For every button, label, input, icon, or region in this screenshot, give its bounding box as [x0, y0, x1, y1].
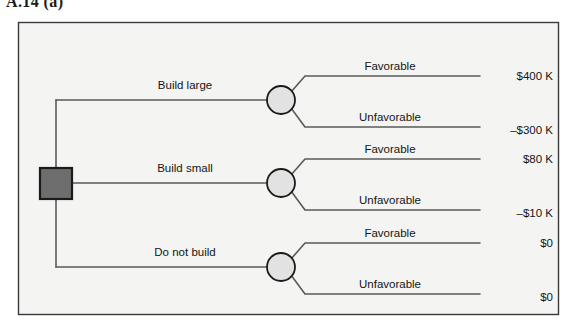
payoff-value-1-1: $400 K	[517, 70, 554, 82]
chance-node-2	[267, 169, 295, 197]
outcome-label-1-2: Unfavorable	[359, 111, 421, 123]
payoff-value-2-2: –$10 K	[517, 207, 554, 219]
decision-branch-label-3: Do not build	[154, 246, 215, 258]
outcome-label-3-2: Unfavorable	[359, 278, 421, 290]
outcome-label-2-2: Unfavorable	[359, 194, 421, 206]
payoff-value-2-1: $80 K	[523, 153, 553, 165]
outcome-label-1-1: Favorable	[364, 60, 415, 72]
payoff-value-3-1: $0	[540, 237, 553, 249]
chance-node-1	[267, 86, 295, 114]
payoff-value-1-2: –$300 K	[510, 124, 553, 136]
decision-node	[40, 168, 72, 199]
chance-node-3	[267, 253, 295, 281]
payoff-value-3-2: $0	[540, 291, 553, 303]
outcome-label-3-1: Favorable	[364, 227, 415, 239]
decision-branch-label-2: Build small	[157, 162, 213, 174]
decision-tree-canvas: Build large Favorable Unfavorable $400 K…	[0, 0, 578, 334]
decision-tree-figure: A.14 (a) Build large Favorable Unfavorab…	[0, 0, 578, 334]
decision-branch-label-1: Build large	[158, 79, 212, 91]
outcome-label-2-1: Favorable	[364, 143, 415, 155]
